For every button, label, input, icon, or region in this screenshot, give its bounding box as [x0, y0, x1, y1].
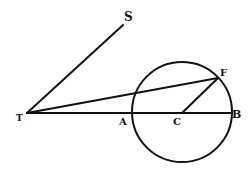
- segment-ts: [27, 25, 123, 113]
- label-c: C: [173, 116, 181, 127]
- segment-tf: [27, 78, 218, 113]
- geometric-figure: TSACBF: [0, 0, 250, 182]
- label-a: A: [118, 116, 127, 127]
- label-s: S: [124, 10, 133, 24]
- diagram-canvas: TSACBF: [0, 0, 250, 182]
- segments: [27, 25, 232, 113]
- label-b: B: [232, 108, 241, 121]
- label-t: T: [16, 113, 23, 123]
- label-f: F: [220, 67, 227, 78]
